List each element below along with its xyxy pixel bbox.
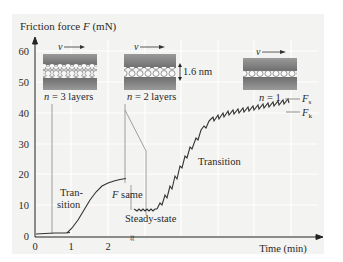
inset-two-layers: v 1.6 nm n = 2 layers — [124, 41, 212, 102]
svg-text:30: 30 — [19, 139, 30, 150]
friction-chart: Friction force F (mN) Time (min) 0 10 20… — [0, 0, 343, 262]
svg-text:0: 0 — [24, 231, 29, 242]
svg-text:2: 2 — [105, 241, 110, 252]
svg-text:1: 1 — [68, 241, 73, 252]
svg-text:60: 60 — [19, 46, 30, 57]
svg-text:n = 1: n = 1 — [259, 92, 281, 103]
y-ticks: 0 10 20 30 40 50 60 — [19, 46, 30, 242]
label-transition-a: Tran- — [60, 187, 83, 198]
label-transition-b: sition — [57, 199, 81, 210]
svg-text:1.6 nm: 1.6 nm — [183, 66, 212, 77]
svg-text:20: 20 — [19, 169, 30, 180]
svg-text:v: v — [134, 41, 139, 52]
x-ticks: 0 1 2 — [32, 241, 110, 252]
inset-one-layer: v n = 1 — [243, 46, 297, 103]
fs-fk-markers — [285, 99, 300, 112]
svg-text:n = 3 layers: n = 3 layers — [44, 91, 93, 102]
x-axis-label: Time (min) — [259, 243, 307, 255]
svg-text:v: v — [256, 46, 261, 57]
y-axis-label: Friction force F (mN) — [20, 20, 117, 33]
label-steady-state: Steady-state — [125, 213, 177, 224]
svg-text:v: v — [58, 41, 63, 52]
svg-text:n = 2 layers: n = 2 layers — [127, 91, 176, 102]
label-f-same: F same — [111, 189, 143, 200]
label-fk: Fk — [301, 107, 312, 120]
svg-text:10: 10 — [19, 200, 30, 211]
label-fs: Fs — [301, 93, 311, 106]
svg-text:40: 40 — [19, 108, 30, 119]
inset-three-layers: v n = 3 layers — [43, 41, 97, 102]
svg-text:0: 0 — [32, 241, 37, 252]
axis-break-symbol: ≈ — [127, 235, 138, 241]
label-transition-2: Transition — [198, 156, 242, 167]
svg-text:50: 50 — [19, 77, 30, 88]
